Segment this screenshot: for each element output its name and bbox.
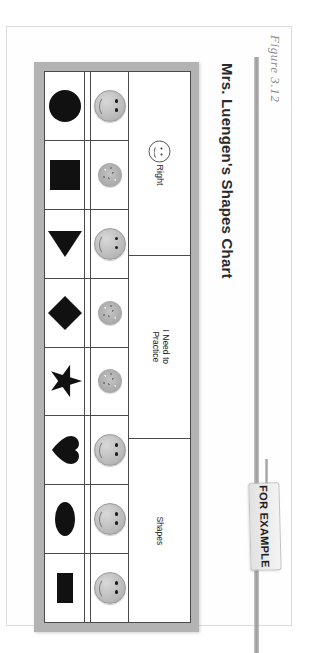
eye-right (115, 246, 119, 250)
for-example-callout: FOR EXAMPLE (248, 482, 281, 571)
rectangle-shape-icon (57, 573, 73, 603)
chart-frame: Right I Need to Practice Shapes (34, 62, 199, 632)
plain-dot-sticker-icon (98, 163, 122, 187)
eye-right (115, 590, 119, 594)
practice-cell[interactable] (85, 210, 90, 279)
right-cell[interactable] (91, 279, 128, 348)
practice-cell[interactable] (85, 348, 90, 417)
eye-left (115, 99, 119, 103)
smile-arc (99, 440, 114, 461)
scanned-page: Figure 3.12 Mrs. Luengen's Shapes Chart … (6, 26, 292, 626)
shape-cell[interactable] (45, 141, 84, 210)
header-cell-practice: I Need to Practice (129, 256, 190, 440)
diamond-shape-icon (48, 296, 82, 330)
plain-dot-sticker-icon (98, 369, 122, 393)
circle-shape-icon (49, 90, 81, 122)
header-label-practice: I Need to Practice (150, 324, 170, 370)
smile-arc (99, 234, 114, 255)
column-right-cells (90, 72, 128, 622)
table-header-column: Right I Need to Practice Shapes (128, 72, 190, 622)
column-practice-cells (84, 72, 90, 622)
oval-shape-icon (55, 502, 75, 536)
practice-cell[interactable] (85, 279, 90, 348)
eye-left (115, 512, 119, 516)
practice-cell[interactable] (85, 141, 90, 210)
practice-cell[interactable] (85, 72, 90, 141)
eye-right (115, 108, 119, 112)
smiley-sticker-icon (94, 90, 126, 122)
eye-right (115, 452, 119, 456)
plain-dot-sticker-icon (98, 301, 122, 325)
shape-cell[interactable] (45, 485, 84, 554)
eye-left (115, 443, 119, 447)
shapes-chart-table: Right I Need to Practice Shapes (44, 71, 191, 623)
smile-arc (99, 96, 114, 117)
right-cell[interactable] (91, 141, 128, 210)
heart-shape-icon (51, 436, 79, 464)
header-cell-shapes: Shapes (129, 439, 190, 622)
smiley-sticker-icon (94, 434, 126, 466)
header-right-group: Right (148, 141, 170, 186)
right-cell[interactable] (91, 210, 128, 279)
shape-cell[interactable] (45, 279, 84, 348)
shape-cell[interactable] (45, 210, 84, 279)
smile-arc (99, 578, 114, 599)
smiley-sticker-icon (94, 572, 126, 604)
smiley-sticker-icon (94, 503, 126, 535)
right-cell[interactable] (91, 416, 128, 485)
header-label-shapes: Shapes (155, 516, 165, 545)
triangle-shape-icon (48, 231, 82, 257)
star-shape-icon (48, 364, 82, 398)
right-cell[interactable] (91, 72, 128, 141)
right-cell[interactable] (91, 554, 128, 622)
eye-right (115, 521, 119, 525)
figure-label: Figure 3.12 (261, 35, 283, 155)
for-example-label: FOR EXAMPLE (258, 485, 272, 568)
right-cell[interactable] (91, 485, 128, 554)
shape-cell[interactable] (45, 416, 84, 485)
shape-cell[interactable] (45, 348, 84, 417)
square-shape-icon (50, 160, 80, 190)
smile-arc (99, 509, 114, 530)
eye-left (115, 581, 119, 585)
shape-cell[interactable] (45, 554, 84, 622)
header-label-right: Right (154, 165, 164, 186)
chart-title: Mrs. Luengen's Shapes Chart (210, 63, 236, 363)
eye-left (115, 237, 119, 241)
right-cell[interactable] (91, 348, 128, 417)
header-cell-right: Right (129, 72, 190, 256)
practice-cell[interactable] (85, 416, 90, 485)
smiley-face-outline-icon (148, 141, 170, 163)
smiley-sticker-icon (94, 228, 126, 260)
column-shapes-cells (45, 72, 84, 622)
practice-cell[interactable] (85, 485, 90, 554)
practice-cell[interactable] (85, 554, 90, 622)
shape-cell[interactable] (45, 72, 84, 141)
